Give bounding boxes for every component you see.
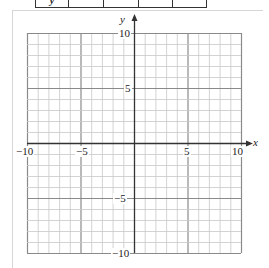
x-axis-arrow-icon (246, 141, 253, 147)
x-tick-label-5: 5 (183, 146, 191, 157)
y-axis-label: y (120, 14, 125, 25)
y-tick-label-5: 5 (124, 83, 132, 94)
coordinate-grid (0, 0, 269, 268)
y-tick-label-neg10: −10 (111, 248, 130, 259)
y-tick-label-10: 10 (118, 28, 131, 39)
y-tick-label-neg5: −5 (113, 193, 127, 204)
x-tick-label-neg5: −5 (75, 146, 89, 157)
x-axis-label: x (253, 137, 258, 148)
y-axis-arrow-icon (132, 14, 138, 21)
x-tick-label-10: 10 (231, 146, 244, 157)
x-tick-label-neg10: −10 (15, 146, 34, 157)
